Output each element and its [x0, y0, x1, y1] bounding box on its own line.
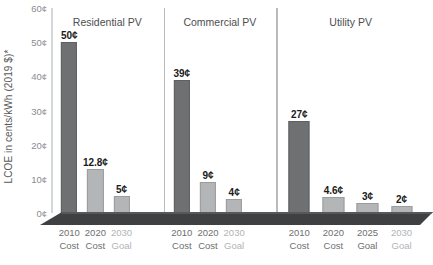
x-axis-tick-label: 2020Cost	[323, 226, 344, 252]
x-axis-tick-kind: Cost	[323, 239, 344, 252]
bar: 9¢	[200, 182, 216, 213]
bar-value-label: 9¢	[202, 170, 213, 181]
x-axis-tick-year: 2010	[289, 227, 310, 238]
bar: 12.8¢	[87, 169, 103, 213]
x-axis-tick-kind: Goal	[224, 239, 245, 252]
bar-value-label: 5¢	[116, 184, 127, 195]
plot-area: Residential PV50¢12.8¢5¢Commercial PV39¢…	[53, 8, 423, 213]
x-axis-tick-kind: Goal	[357, 239, 378, 252]
y-axis-title: LCOE in cents/kWh (2019 $)*	[0, 0, 18, 232]
lcoe-bar-chart: LCOE in cents/kWh (2019 $)* 0¢10¢20¢30¢4…	[0, 0, 433, 265]
group-separator	[164, 8, 166, 213]
y-axis-tick-label: 10¢	[31, 173, 47, 184]
bar: 39¢	[174, 80, 190, 213]
x-axis-tick-year: 2010	[59, 227, 80, 238]
x-axis-tick-year: 2030	[391, 227, 412, 238]
bar-value-label: 27¢	[291, 109, 308, 120]
x-axis-tick-year: 2020	[323, 227, 344, 238]
x-axis-tick-label: 2010Cost	[171, 226, 192, 252]
x-axis-tick-year: 2025	[357, 227, 378, 238]
group-title: Residential PV	[73, 16, 142, 28]
group-title: Commercial PV	[183, 16, 256, 28]
y-axis-tick-label: 50¢	[31, 37, 47, 48]
bar: 27¢	[289, 121, 310, 213]
y-axis-title-text: LCOE in cents/kWh (2019 $)*	[4, 49, 15, 183]
x-axis-tick-label: 2025Goal	[357, 226, 378, 252]
y-axis-tick-label: 20¢	[31, 139, 47, 150]
y-axis-tick-label: 60¢	[31, 3, 47, 14]
bar-value-label: 3¢	[362, 191, 373, 202]
x-axis-tick-kind: Goal	[111, 239, 132, 252]
x-axis-tick-label: 2020Cost	[197, 226, 218, 252]
x-axis-tick-year: 2030	[224, 227, 245, 238]
x-axis-tick-year: 2020	[85, 227, 106, 238]
x-axis-tick-kind: Goal	[391, 239, 412, 252]
x-axis-tick-label: 2030Goal	[391, 226, 412, 252]
y-axis-tick-label: 40¢	[31, 71, 47, 82]
x-axis-tick-label: 2030Goal	[111, 226, 132, 252]
bar: 5¢	[113, 196, 129, 213]
x-axis-tick-kind: Cost	[197, 239, 218, 252]
x-axis-tick-kind: Cost	[171, 239, 192, 252]
group-title: Utility PV	[329, 16, 372, 28]
x-axis-tick-year: 2020	[197, 227, 218, 238]
bar-value-label: 50¢	[61, 30, 78, 41]
y-axis-tick-label: 30¢	[31, 105, 47, 116]
x-axis-tick-kind: Cost	[59, 239, 80, 252]
bar: 50¢	[61, 42, 77, 213]
x-axis-tick-label: 2010Cost	[289, 226, 310, 252]
bar-value-label: 4.6¢	[324, 185, 343, 196]
group-separator	[276, 8, 278, 213]
bar-value-label: 12.8¢	[83, 157, 108, 168]
y-axis-ticks: 0¢10¢20¢30¢40¢50¢60¢	[18, 0, 51, 232]
bar-value-label: 4¢	[229, 187, 240, 198]
bar-value-label: 2¢	[396, 194, 407, 205]
x-axis-labels: 2010Cost2020Cost2030Goal2010Cost2020Cost…	[53, 226, 423, 260]
x-axis-tick-year: 2030	[111, 227, 132, 238]
x-axis-tick-label: 2030Goal	[224, 226, 245, 252]
baseline-platform	[40, 212, 433, 225]
x-axis-tick-label: 2010Cost	[59, 226, 80, 252]
x-axis-tick-year: 2010	[171, 227, 192, 238]
x-axis-tick-kind: Cost	[85, 239, 106, 252]
x-axis-tick-kind: Cost	[289, 239, 310, 252]
bar: 4.6¢	[323, 197, 344, 213]
x-axis-tick-label: 2020Cost	[85, 226, 106, 252]
bar: 4¢	[226, 199, 242, 213]
bar-value-label: 39¢	[173, 68, 190, 79]
